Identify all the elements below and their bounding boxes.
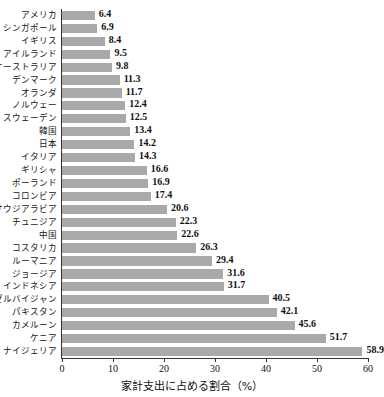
category-label: アイルランド	[3, 48, 57, 61]
bar[interactable]	[62, 153, 135, 162]
category-label: ノルウェー	[12, 99, 57, 112]
bar-value-label: 12.5	[130, 111, 148, 122]
bar[interactable]	[62, 101, 125, 110]
x-tick-mark	[164, 358, 165, 362]
bar[interactable]	[62, 127, 130, 136]
category-label: ポーランド	[12, 177, 57, 190]
category-label: スウェーデン	[3, 112, 57, 125]
x-tick-mark	[368, 358, 369, 362]
bar[interactable]	[62, 179, 148, 188]
bar[interactable]	[62, 114, 126, 123]
x-tick-mark	[317, 358, 318, 362]
category-label: サウジアラビア	[0, 203, 57, 216]
bar-value-label: 16.9	[152, 176, 170, 187]
bar-row: 58.9	[62, 345, 368, 358]
bar[interactable]	[62, 321, 295, 330]
category-label: インドネシア	[3, 280, 57, 293]
bar-row: 9.5	[62, 48, 368, 61]
x-tick-label: 10	[108, 363, 118, 374]
category-label: アゼルバイジャン	[0, 293, 57, 306]
bar-value-label: 22.6	[181, 228, 199, 239]
bar-value-label: 14.2	[138, 137, 156, 148]
x-tick-mark	[266, 358, 267, 362]
category-label: オランダ	[21, 87, 57, 100]
x-tick-label: 40	[261, 363, 271, 374]
bar-row: 16.6	[62, 164, 368, 177]
bar[interactable]	[62, 282, 224, 291]
bar-row: 16.9	[62, 177, 368, 190]
bar-row: 31.6	[62, 268, 368, 281]
bar-value-label: 40.5	[273, 292, 291, 303]
bar-value-label: 17.4	[155, 189, 173, 200]
bar-row: 14.2	[62, 138, 368, 151]
bar[interactable]	[62, 50, 110, 59]
x-tick-label: 30	[210, 363, 220, 374]
category-label: コスタリカ	[12, 242, 57, 255]
bar[interactable]	[62, 256, 212, 265]
bar[interactable]	[62, 243, 196, 252]
bar-value-label: 45.6	[299, 318, 317, 329]
bar[interactable]	[62, 11, 95, 20]
category-label: ナイジェリア	[3, 345, 57, 358]
category-label: 中国	[39, 229, 57, 242]
bar[interactable]	[62, 347, 362, 356]
bar-row: 22.3	[62, 216, 368, 229]
bar-value-label: 51.7	[330, 331, 348, 342]
bar-value-label: 12.4	[129, 98, 147, 109]
bar[interactable]	[62, 269, 223, 278]
bar-value-label: 13.4	[134, 124, 152, 135]
category-label: オーストラリア	[0, 61, 57, 74]
bar[interactable]	[62, 63, 112, 72]
bar-value-label: 58.9	[366, 344, 384, 355]
x-tick-mark	[62, 358, 63, 362]
category-label: パキスタン	[12, 306, 57, 319]
bar[interactable]	[62, 192, 151, 201]
category-label: ギリシャ	[21, 164, 57, 177]
x-axis-title: 家計支出に占める割合（%）	[0, 377, 384, 393]
category-axis-labels: アメリカシンガポールイギリスアイルランドオーストラリアデンマークオランダノルウェ…	[0, 9, 57, 358]
bar[interactable]	[62, 166, 147, 175]
category-label: 日本	[39, 138, 57, 151]
bar[interactable]	[62, 75, 120, 84]
bar-value-label: 42.1	[281, 305, 299, 316]
bar[interactable]	[62, 218, 176, 227]
x-tick-mark	[215, 358, 216, 362]
plot-area: 6.46.98.49.59.811.311.712.412.513.414.21…	[62, 9, 368, 358]
bar[interactable]	[62, 205, 167, 214]
bar-row: 29.4	[62, 255, 368, 268]
bar[interactable]	[62, 88, 122, 97]
category-label: イタリア	[21, 151, 57, 164]
bar-row: 20.6	[62, 203, 368, 216]
bar-value-label: 20.6	[171, 202, 189, 213]
bar-value-label: 31.6	[227, 267, 245, 278]
x-tick-label: 20	[159, 363, 169, 374]
category-label: コロンビア	[12, 190, 57, 203]
bar-row: 11.7	[62, 87, 368, 100]
bar-value-label: 11.7	[126, 86, 143, 97]
bar-row: 12.5	[62, 112, 368, 125]
bar[interactable]	[62, 334, 326, 343]
bar-row: 12.4	[62, 99, 368, 112]
x-tick-label: 60	[363, 363, 373, 374]
bar[interactable]	[62, 140, 134, 149]
bar[interactable]	[62, 231, 177, 240]
category-label: シンガポール	[3, 22, 57, 35]
bar-value-label: 9.5	[114, 47, 127, 58]
horizontal-bar-chart: アメリカシンガポールイギリスアイルランドオーストラリアデンマークオランダノルウェ…	[0, 0, 384, 397]
category-label: アメリカ	[21, 9, 57, 22]
bar-value-label: 8.4	[109, 34, 122, 45]
bar-value-label: 16.6	[151, 163, 169, 174]
bar-value-label: 22.3	[180, 215, 198, 226]
category-label: デンマーク	[12, 74, 57, 87]
bar-row: 45.6	[62, 319, 368, 332]
category-label: ジョージア	[12, 268, 57, 281]
x-tick-mark	[113, 358, 114, 362]
bar[interactable]	[62, 295, 269, 304]
bar[interactable]	[62, 37, 105, 46]
bar-value-label: 26.3	[200, 241, 218, 252]
bar[interactable]	[62, 24, 97, 33]
category-label: カメルーン	[12, 319, 57, 332]
bar-value-label: 6.9	[101, 21, 114, 32]
x-tick-label: 0	[60, 363, 65, 374]
bar[interactable]	[62, 308, 277, 317]
